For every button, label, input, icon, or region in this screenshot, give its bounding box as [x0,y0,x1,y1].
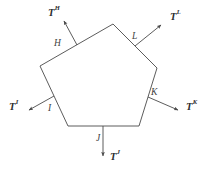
traction-diagram-svg [0,0,210,169]
vector-label-T-H: TH [48,6,59,18]
vector-symbol-T-I: T [9,101,15,112]
vector-label-T-L: TL [170,10,180,22]
edge-label-J: J [96,134,100,144]
edge-label-L: L [132,32,137,42]
vector-label-T-K: TK [186,100,197,112]
traction-arrow-K [148,97,178,110]
vector-symbol-T-J: T [110,151,116,162]
vector-label-T-J: TJ [110,150,120,162]
traction-arrow-H [64,21,77,45]
vector-superscript-I: I [16,98,19,105]
figure-canvas: H I J K L TH TI TJ TK TL [0,0,210,169]
vector-superscript-K: K [193,98,197,105]
traction-arrow-L [135,25,161,46]
vector-symbol-T-H: T [48,7,54,18]
edge-label-I: I [48,104,51,114]
vector-symbol-T-K: T [186,101,192,112]
vector-label-T-I: TI [9,100,18,112]
edge-label-H: H [54,39,61,49]
vector-superscript-L: L [177,8,181,15]
edge-label-K: K [151,88,157,98]
vector-symbol-T-L: T [170,11,176,22]
vector-superscript-J: J [117,148,120,155]
vector-superscript-H: H [55,4,60,11]
